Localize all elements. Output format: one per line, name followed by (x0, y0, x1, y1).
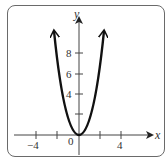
parabola-graph: x y 0 −4 4 4 6 8 (0, 0, 167, 164)
y-tick-label-8: 8 (66, 47, 72, 59)
x-axis-label: x (154, 128, 161, 142)
y-tick-label-4: 4 (66, 88, 72, 100)
x-tick-label-neg4: −4 (27, 139, 39, 151)
parabola-curve-right (79, 31, 104, 135)
y-axis-label: y (73, 7, 80, 21)
origin-label: 0 (68, 135, 74, 147)
x-tick-label-4: 4 (117, 139, 123, 151)
y-tick-label-6: 6 (66, 68, 72, 80)
